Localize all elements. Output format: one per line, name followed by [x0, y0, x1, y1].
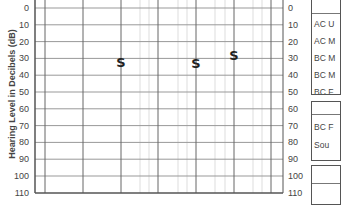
- y-tick-label-left: 70: [19, 121, 29, 131]
- y-tick-label-right: 60: [288, 104, 298, 114]
- y-tick-label-left: 110: [15, 188, 29, 198]
- y-tick-label-right: 0: [288, 3, 293, 13]
- legend-item: BC F: [312, 84, 340, 95]
- legend-box-3-header: [312, 166, 340, 184]
- y-tick-label-left: 10: [19, 20, 29, 30]
- y-tick-label-left: 60: [19, 104, 29, 114]
- legend-item: BC F: [312, 118, 340, 136]
- y-axis-right-ticks: 0102030405060708090100110: [288, 3, 303, 198]
- y-tick-label-left: 40: [19, 70, 29, 80]
- legend-box-3: [311, 165, 341, 205]
- legend-box-1: AC U AC M BC M BC M BC F: [311, 0, 341, 95]
- legend-item: Sou: [312, 136, 340, 154]
- y-tick-label-right: 10: [288, 20, 298, 30]
- y-tick-label-right: 40: [288, 70, 298, 80]
- y-tick-label-left: 0: [24, 3, 29, 13]
- y-tick-label-left: 80: [19, 137, 29, 147]
- y-tick-label-left: 100: [14, 171, 29, 181]
- y-tick-label-right: 80: [288, 137, 298, 147]
- y-tick-label-right: 20: [288, 37, 298, 47]
- sound-field-symbol: S: [116, 55, 125, 70]
- y-tick-label-left: 90: [19, 154, 29, 164]
- y-tick-label-left: 20: [19, 37, 29, 47]
- legend-box-2: BC F Sou: [311, 101, 341, 161]
- legend-item: BC M: [312, 67, 340, 84]
- legend-item: BC M: [312, 50, 340, 67]
- y-tick-label-right: 30: [288, 53, 298, 63]
- legend-item: AC U: [312, 16, 340, 33]
- legend-item: AC M: [312, 33, 340, 50]
- y-tick-label-right: 110: [288, 188, 302, 198]
- legend-box-1-header: [312, 0, 340, 14]
- y-tick-label-right: 70: [288, 121, 298, 131]
- y-axis-label: Hearing Level in Decibels (dB): [7, 19, 19, 169]
- legend-box-2-header: [312, 102, 340, 115]
- y-tick-label-left: 30: [19, 53, 29, 63]
- y-tick-label-right: 90: [288, 154, 298, 164]
- sound-field-symbol: S: [229, 48, 238, 63]
- y-tick-label-left: 50: [19, 87, 29, 97]
- y-tick-label-right: 100: [288, 171, 303, 181]
- y-tick-label-right: 50: [288, 87, 298, 97]
- chart-grid: [35, 0, 283, 193]
- sound-field-symbol: S: [191, 56, 200, 71]
